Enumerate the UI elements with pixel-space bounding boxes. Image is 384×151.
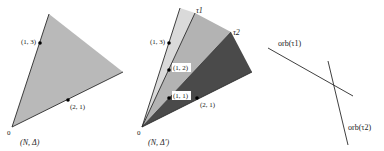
point-1-3-dot bbox=[38, 41, 42, 45]
point-2-1-dot bbox=[66, 98, 70, 102]
panel-caption: (N, Δ) bbox=[20, 138, 40, 147]
origin-label: 0 bbox=[7, 129, 11, 137]
fan-diagram: (1, 3) (2, 1) 0 (N, Δ) τ1 τ2 (1, 3) (1, … bbox=[0, 0, 384, 151]
point-2-1-label: (2, 1) bbox=[200, 101, 216, 109]
panel-caption: (N, Δ′) bbox=[148, 138, 169, 147]
point-1-2-dot bbox=[167, 68, 171, 72]
point-1-3-dot bbox=[167, 41, 171, 45]
orb-tau2-label: orb(τ2) bbox=[348, 123, 372, 132]
middle-panel: τ1 τ2 (1, 3) (1, 2) (1, 1) (2, 1) 0 (N, … bbox=[137, 6, 252, 147]
point-1-1-dot bbox=[167, 96, 171, 100]
right-panel: orb(τ1) orb(τ2) bbox=[268, 39, 372, 145]
point-1-3-label: (1, 3) bbox=[21, 38, 37, 46]
origin-label: 0 bbox=[137, 129, 141, 137]
triangle-region bbox=[12, 14, 123, 127]
point-1-2-label: (1, 2) bbox=[173, 64, 189, 72]
point-2-1-label: (2, 1) bbox=[70, 103, 86, 111]
point-1-1-label: (1, 1) bbox=[173, 92, 189, 100]
point-2-1-dot bbox=[195, 96, 199, 100]
orb-tau2-line bbox=[328, 61, 348, 145]
point-1-3-label: (1, 3) bbox=[150, 38, 166, 46]
orb-tau1-label: orb(τ1) bbox=[278, 39, 302, 48]
left-panel: (1, 3) (2, 1) 0 (N, Δ) bbox=[7, 14, 123, 147]
tau2-label: τ2 bbox=[233, 28, 240, 37]
orb-tau1-line bbox=[268, 48, 353, 96]
tau1-label: τ1 bbox=[196, 6, 203, 15]
